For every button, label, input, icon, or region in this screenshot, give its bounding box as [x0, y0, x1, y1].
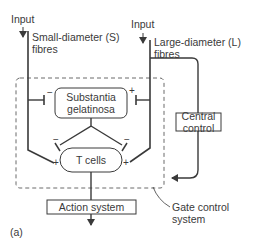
central-control-label: Central control — [176, 110, 221, 134]
l-fibre-label-2: fibres — [154, 48, 180, 60]
gate-control-label-1: Gate control — [172, 201, 229, 213]
t-right-plus-sign: + — [123, 158, 129, 168]
t-left-minus-sign: − — [53, 135, 59, 145]
sg-label-line1: Substantia — [55, 91, 127, 103]
t-right-minus-sign: − — [124, 135, 130, 145]
gate-label-pointer — [153, 187, 170, 207]
t-cells-label: T cells — [60, 154, 122, 166]
gate-control-label-2: system — [172, 213, 205, 225]
t-left-plus-sign: + — [53, 158, 59, 168]
panel-label: (a) — [10, 226, 23, 238]
action-system-label: Action system — [47, 201, 136, 213]
sg-label-line2: gelatinosa — [55, 103, 127, 115]
substantia-gelatinosa-label: Substantia gelatinosa — [55, 91, 127, 115]
central-feedback-path — [172, 130, 198, 178]
s-fibre-label-2: fibres — [32, 43, 58, 55]
l-fibre-label-1: Large-diameter (L) — [154, 36, 241, 48]
l-fibre-path — [130, 40, 150, 162]
cc-label-line2: control — [176, 122, 221, 134]
left-input-label: Input — [11, 13, 34, 25]
cc-label-line1: Central — [176, 110, 221, 122]
right-input-label: Input — [131, 18, 154, 30]
sg-right-sign: + — [129, 86, 135, 96]
s-fibre-label-1: Small-diameter (S) — [32, 31, 120, 43]
l-to-central-path — [150, 58, 198, 113]
sg-left-sign: − — [47, 88, 53, 98]
